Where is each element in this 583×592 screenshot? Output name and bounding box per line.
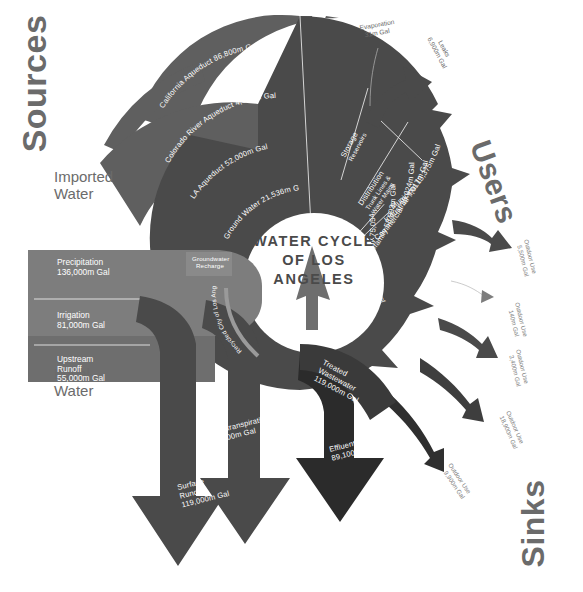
label-groundwater-recharge-1: Groundwater (192, 255, 229, 262)
page-title: WATER CYCLE OF LOS ANGELES (250, 232, 378, 289)
sources-heading: Sources (15, 15, 54, 153)
water-cycle-infographic: California Aqueduct 86,800m Gal Colorado… (0, 0, 583, 592)
sinks-heading: Sinks (515, 480, 552, 568)
outdoor-arrow-industrial-head (481, 290, 494, 303)
sankey-diagram: California Aqueduct 86,800m Gal Colorado… (0, 0, 583, 592)
outdoor-arrow-commercial (438, 318, 498, 358)
label-groundwater-recharge-2: Recharge (196, 262, 224, 269)
outdoor-arrow-municipal (452, 220, 512, 252)
outdoor-arrow-industrial (451, 281, 484, 296)
imported-water-group-label: Imported Water (54, 168, 113, 203)
outdoor-arrow-multifamily (420, 358, 484, 422)
outdoor-use-labels: Outdoor Use 5,500m Gal Outdoor Use 140m … (441, 239, 539, 500)
label-upstream-runoff: Upstream Runoff 55,000m Gal (57, 355, 105, 384)
outdoor-arrow-singlefamily (386, 392, 444, 472)
label-irrigation: Irrigation 81,000m Gal (57, 311, 105, 330)
label-precipitation: Precipitation 136,000m Gal (57, 258, 110, 277)
